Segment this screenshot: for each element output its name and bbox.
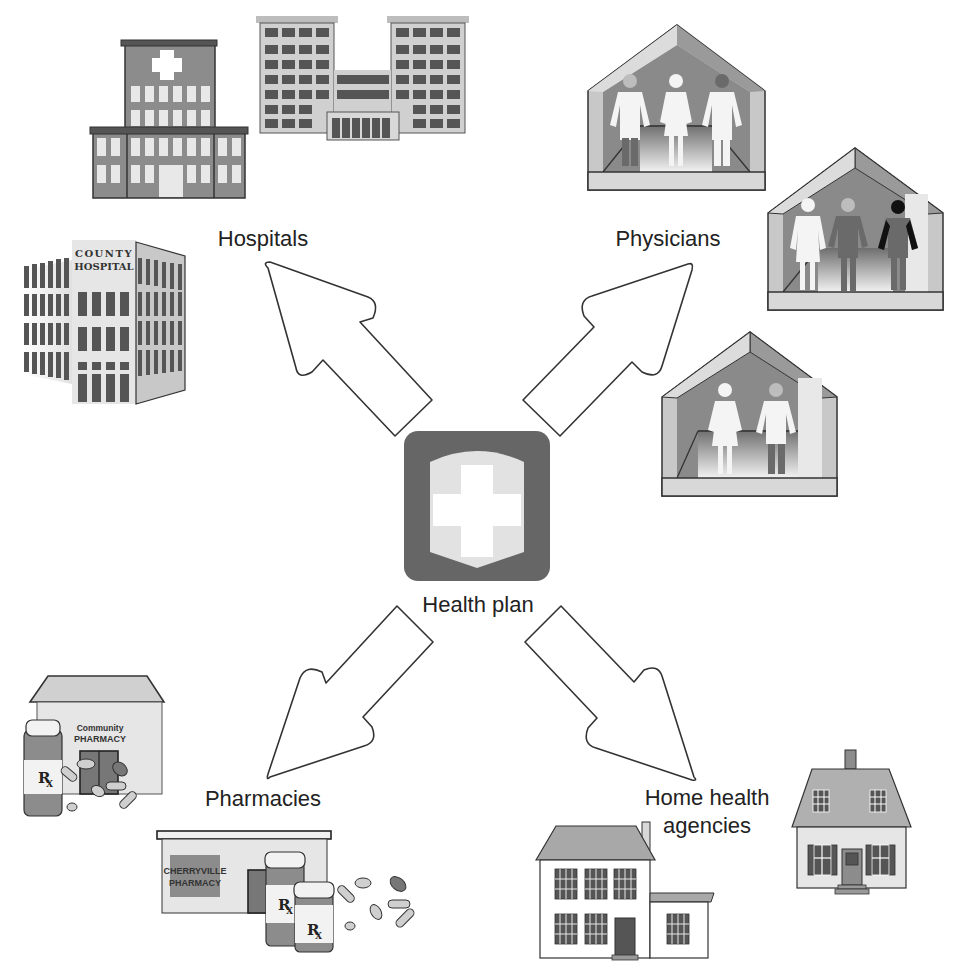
cape-cod-house-icon [792, 750, 911, 894]
hospital-twin-towers-icon [256, 16, 469, 140]
physician-office-2-icon [768, 148, 943, 310]
hospital-with-cross-icon [90, 40, 248, 198]
community-sign-line2: PHARMACY [74, 734, 126, 744]
community-pharmacy-icon: Community PHARMACY R X [24, 676, 164, 816]
cherryville-sign-line1: CHERRYVILLE [163, 866, 226, 876]
pharmacies-label: Pharmacies [190, 786, 336, 812]
svg-text:X: X [286, 906, 293, 916]
home-health-label-line1: Home health [632, 784, 782, 812]
two-story-house-icon [536, 822, 714, 960]
arrow-to-home-health [525, 606, 696, 780]
rx-bottle-icon: R X [24, 720, 62, 816]
health-plan-label: Health plan [400, 592, 556, 618]
community-sign-line1: Community [77, 723, 124, 733]
cherryville-sign-line2: PHARMACY [169, 878, 221, 888]
rx-bottle-icon: R X [294, 882, 334, 952]
cherryville-pharmacy-icon: CHERRYVILLE PHARMACY R X R X [157, 831, 416, 952]
county-sign-line1: COUNTY [75, 248, 133, 259]
home-health-label-line2: agencies [632, 812, 782, 840]
hospitals-label: Hospitals [205, 226, 321, 252]
svg-text:X: X [315, 931, 322, 941]
physician-office-3-icon [662, 332, 837, 496]
health-plan-network-diagram: COUNTY HOSPITAL [0, 0, 959, 978]
county-sign-line2: HOSPITAL [74, 261, 133, 272]
svg-text:X: X [46, 779, 53, 789]
health-plan-shield-icon [404, 431, 550, 581]
county-hospital-icon: COUNTY HOSPITAL [22, 240, 185, 404]
physicians-label: Physicians [600, 226, 736, 252]
arrow-to-hospitals [265, 262, 432, 436]
home-health-agencies-label: Home health agencies [632, 784, 782, 840]
physician-office-1-icon [588, 25, 765, 190]
arrow-to-pharmacies [267, 606, 433, 778]
diagram-canvas: COUNTY HOSPITAL [0, 0, 959, 978]
